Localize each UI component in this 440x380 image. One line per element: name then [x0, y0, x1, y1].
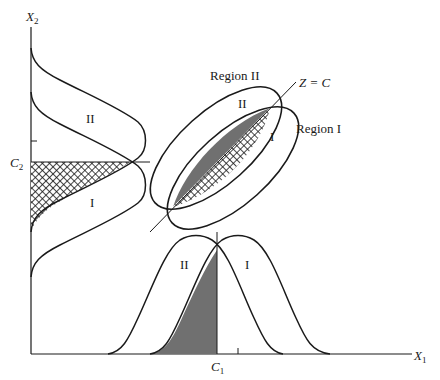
discriminant-line-label: Z = C — [299, 76, 330, 89]
x2-axis-label-text: X — [26, 9, 34, 24]
classification-diagram — [0, 0, 440, 380]
x1-axis-label-text: X — [414, 348, 422, 363]
c1-label: C1 — [211, 360, 224, 376]
c2-label-text: C — [10, 155, 19, 170]
c2-label: C2 — [10, 156, 23, 172]
x2-axis-label-sub: 2 — [34, 16, 39, 26]
x1-axis-label-sub: 1 — [422, 355, 427, 365]
discriminant-line — [150, 82, 296, 232]
x2-axis-label: X2 — [26, 10, 38, 26]
ellipse-upper-population-label: II — [238, 97, 247, 110]
region-one-label: Region I — [296, 122, 341, 135]
left-lower-population-label: I — [90, 196, 94, 209]
ellipse-lower-population-label: I — [270, 130, 274, 143]
c1-label-text: C — [211, 359, 220, 374]
region-two-label: Region II — [210, 69, 259, 82]
c2-label-sub: 2 — [19, 162, 24, 172]
c1-label-sub: 1 — [220, 366, 225, 376]
x1-axis-label: X1 — [414, 349, 426, 365]
bottom-left-population-label: II — [180, 258, 189, 271]
left-upper-population-label: II — [86, 112, 95, 125]
bottom-right-population-label: I — [245, 258, 249, 271]
